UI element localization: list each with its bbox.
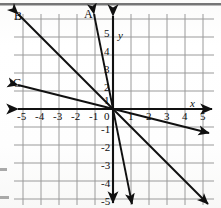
y-tick-label: 4 — [104, 46, 110, 57]
line-label-c: C — [13, 77, 21, 89]
x-tick-label: 2 — [146, 111, 152, 122]
x-tick-label: 3 — [164, 111, 170, 122]
x-tick-label: 4 — [182, 111, 188, 122]
coordinate-plane-svg — [0, 0, 221, 208]
y-tick-label: -1 — [101, 124, 110, 135]
y-axis-label: y — [118, 30, 123, 41]
x-tick-label: -5 — [17, 111, 26, 122]
x-tick-label: -2 — [71, 111, 80, 122]
y-tick-label: -4 — [101, 178, 110, 189]
y-tick-label: -5 — [101, 196, 110, 207]
line-label-a: A — [84, 8, 93, 20]
x-tick-label: 1 — [128, 111, 134, 122]
y-tick-label: 1 — [104, 95, 110, 106]
y-tick-label: 3 — [104, 64, 110, 75]
y-tick-label: -2 — [101, 142, 110, 153]
x-tick-label: 5 — [200, 111, 206, 122]
y-tick-label: -3 — [101, 160, 110, 171]
x-tick-label: -4 — [35, 111, 44, 122]
x-tick-label: -3 — [53, 111, 62, 122]
y-tick-label: 5 — [104, 28, 110, 39]
x-axis-label: x — [190, 98, 195, 109]
origin-label: 0 — [104, 111, 110, 122]
y-tick-label: 2 — [104, 82, 110, 93]
line-label-b: B — [14, 10, 22, 22]
x-tick-label: -1 — [89, 111, 98, 122]
scanned-graph-figure: B A C x y 0 -5 -4 -3 -2 -1 1 2 3 4 5 5 4… — [0, 0, 221, 208]
